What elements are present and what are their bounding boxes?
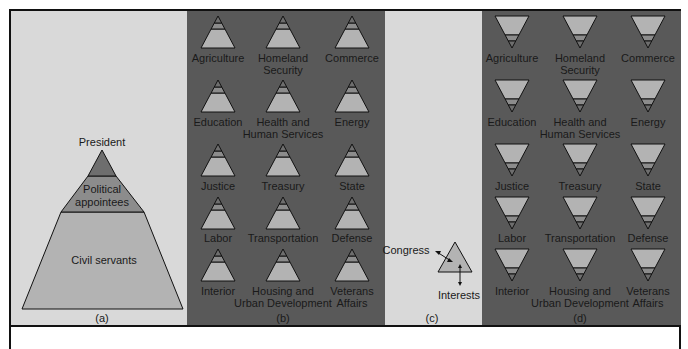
inverted-base-tier <box>495 80 529 99</box>
congress-label: Congress <box>382 244 429 256</box>
pyramid-base-tier <box>201 262 235 281</box>
pyramid-base-tier <box>335 29 369 48</box>
pyramid-top-tier <box>348 197 355 204</box>
inverted-mid-tier <box>641 99 655 105</box>
pyramid-top-tier <box>279 249 286 256</box>
pyramid-base-tier <box>201 210 235 229</box>
pyramid-top-tier <box>279 144 286 151</box>
inverted-top-tier <box>644 274 651 281</box>
inverted-top-tier <box>508 274 515 281</box>
president-label: President <box>79 136 125 148</box>
pyramid-top-tier <box>214 16 221 23</box>
department-label-line1: Commerce <box>621 52 675 64</box>
iron-triangle <box>435 242 472 286</box>
inverted-base-tier <box>631 197 665 216</box>
caption-d: (d) <box>573 312 586 324</box>
department-label-line2: Human Services <box>540 128 621 140</box>
department-label-line1: Agriculture <box>192 52 245 64</box>
inverted-top-tier <box>644 105 651 112</box>
pyramid-mid-tier <box>345 151 359 157</box>
department-label-line1: Housing and <box>549 285 611 297</box>
department-label-line1: Interior <box>201 285 235 297</box>
inverted-mid-tier <box>505 216 519 222</box>
pyramid-mid-tier <box>345 256 359 262</box>
inverted-mid-tier <box>573 35 587 41</box>
inverted-mid-tier <box>505 99 519 105</box>
department-label-line2: Security <box>263 64 303 76</box>
inverted-mid-tier <box>573 163 587 169</box>
political-label-line2: appointees <box>75 196 129 208</box>
inverted-base-tier <box>495 197 529 216</box>
caption-a: (a) <box>95 312 108 324</box>
pyramid-base-tier <box>266 157 300 176</box>
civil-servants-label: Civil servants <box>71 254 136 266</box>
inverted-base-tier <box>631 16 665 35</box>
pyramid-mid-tier <box>211 87 225 93</box>
department-label-line1: Interior <box>495 285 529 297</box>
department-label-line1: Education <box>488 116 537 128</box>
inverted-base-tier <box>631 144 665 163</box>
pyramid-base-tier <box>266 210 300 229</box>
pyramid-mid-tier <box>211 23 225 29</box>
department-label-line1: Energy <box>335 116 370 128</box>
department-label-line2: Security <box>560 64 600 76</box>
pyramid-mid-tier <box>211 256 225 262</box>
interests-label: Interests <box>438 289 480 301</box>
inverted-base-tier <box>631 249 665 268</box>
department-label-line1: Energy <box>631 116 666 128</box>
inverted-base-tier <box>563 16 597 35</box>
department-label-line2: Human Services <box>243 128 324 140</box>
department-label-line1: Transportation <box>545 232 616 244</box>
pyramid-top-tier <box>279 80 286 87</box>
inverted-top-tier <box>508 222 515 229</box>
pyramid-base-tier <box>266 29 300 48</box>
inverted-base-tier <box>563 80 597 99</box>
department-label-line1: Treasury <box>262 180 305 192</box>
pyramid-top-tier <box>348 144 355 151</box>
department-label-line1: Health and <box>553 116 606 128</box>
inverted-mid-tier <box>505 268 519 274</box>
pyramid-top-tier <box>214 144 221 151</box>
inverted-mid-tier <box>505 163 519 169</box>
department-label-line1: Veterans <box>626 285 669 297</box>
department-label-line1: Defense <box>628 232 669 244</box>
inverted-mid-tier <box>641 268 655 274</box>
pyramid-mid-tier <box>345 204 359 210</box>
pyramid-base-tier <box>335 262 369 281</box>
pyramid-base-tier <box>335 210 369 229</box>
department-label-line1: Justice <box>495 180 529 192</box>
department-label-line1: Commerce <box>325 52 379 64</box>
inverted-top-tier <box>508 169 515 176</box>
president-tier <box>88 150 116 176</box>
department-label-line1: State <box>635 180 661 192</box>
inverted-top-tier <box>576 274 583 281</box>
pyramid-mid-tier <box>345 87 359 93</box>
inverted-mid-tier <box>573 268 587 274</box>
pyramid-top-tier <box>214 197 221 204</box>
pyramid-mid-tier <box>276 256 290 262</box>
department-label-line1: Transportation <box>248 232 319 244</box>
pyramid-base-tier <box>266 262 300 281</box>
department-label-line1: Agriculture <box>486 52 539 64</box>
pyramid-top-tier <box>348 80 355 87</box>
pyramid-base-tier <box>201 93 235 112</box>
inverted-top-tier <box>508 105 515 112</box>
inverted-mid-tier <box>641 216 655 222</box>
department-label-line1: Treasury <box>559 180 602 192</box>
inverted-base-tier <box>631 80 665 99</box>
inverted-base-tier <box>563 249 597 268</box>
inverted-mid-tier <box>505 35 519 41</box>
pyramid-base-tier <box>201 29 235 48</box>
caption-b: (b) <box>276 312 289 324</box>
pyramid-base-tier <box>201 157 235 176</box>
inverted-mid-tier <box>641 163 655 169</box>
department-label-line1: Defense <box>332 232 373 244</box>
caption-c: (c) <box>426 312 439 324</box>
pyramid-top-tier <box>214 249 221 256</box>
inverted-top-tier <box>576 169 583 176</box>
inverted-base-tier <box>495 144 529 163</box>
pyramid-mid-tier <box>211 204 225 210</box>
inverted-base-tier <box>495 16 529 35</box>
pyramid-base-tier <box>266 93 300 112</box>
pyramid-top-tier <box>279 16 286 23</box>
